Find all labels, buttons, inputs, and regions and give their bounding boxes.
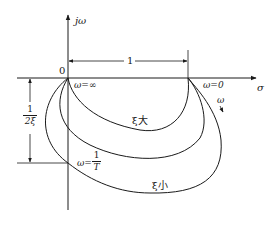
origin-label: 0 [59, 66, 65, 76]
label-omega-direction: ω [217, 96, 224, 105]
dimension-label-one-over-2xi: 1 2ξ [23, 105, 37, 126]
fraction-denominator: T [92, 163, 101, 172]
s-plane-diagram [0, 0, 280, 227]
label-omega-one-over-T-prefix: ω= [77, 159, 92, 168]
label-omega-infinity: ω=∞ [74, 81, 96, 90]
axis-label-jomega: jω [75, 16, 86, 26]
curve-label-xi-small: ξ小 [152, 181, 168, 191]
axis-label-sigma: σ [257, 83, 264, 93]
label-omega-zero: ω=0 [203, 81, 224, 90]
label-omega-one-over-T-fraction: 1 T [92, 151, 101, 172]
fraction-numerator: 1 [23, 105, 37, 114]
omega-direction-arrow [220, 106, 223, 112]
curve-label-xi-large: ξ大 [132, 116, 148, 126]
fraction-numerator: 1 [92, 151, 101, 160]
fraction-denominator: 2ξ [23, 117, 37, 126]
curve-xi-small [45, 78, 221, 193]
dimension-label-one: 1 [127, 56, 133, 66]
